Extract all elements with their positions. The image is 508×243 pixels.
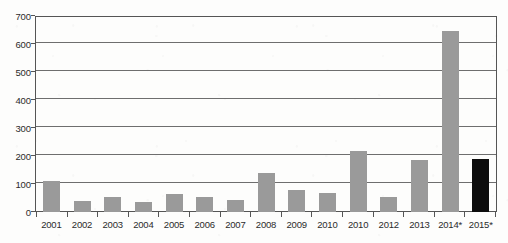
x-tick-mark: [281, 212, 282, 217]
x-tick-mark: [189, 212, 190, 217]
x-tick-slot: [189, 212, 220, 217]
x-axis-tick-marks: [36, 212, 496, 217]
x-tick-slot: [311, 212, 342, 217]
bar-2010: [350, 151, 367, 212]
x-tick-label: 2002: [67, 219, 98, 239]
x-tick-label: 2001: [36, 219, 67, 239]
x-tick-slot: [403, 212, 434, 217]
x-tick-mark: [158, 212, 159, 217]
x-tick-slot: [67, 212, 98, 217]
y-axis-tick-marks: [0, 16, 35, 212]
x-tick-slot: [281, 212, 312, 217]
bar-2001: [43, 181, 60, 212]
x-tick-label: 2014*: [435, 219, 466, 239]
bar-slot: [343, 16, 374, 212]
x-tick-slot: [128, 212, 159, 217]
bar-slot: [220, 16, 251, 212]
x-tick-mark: [128, 212, 129, 217]
x-tick-mark: [220, 212, 221, 217]
bar-slot: [128, 16, 159, 212]
bar-slot: [36, 16, 67, 212]
bar-2005: [166, 194, 183, 212]
bar-chart: 0100200300400500600700 20012002200320042…: [0, 0, 508, 243]
x-tick-label: 2013: [404, 219, 435, 239]
x-tick-label: 2010: [312, 219, 343, 239]
bar-2004: [135, 202, 152, 212]
bar-slot: [251, 16, 282, 212]
x-tick-slot: [373, 212, 404, 217]
bar-2002: [74, 201, 91, 212]
bar-2003: [104, 197, 121, 212]
bar-2015-est: [472, 159, 489, 212]
x-tick-slot: [250, 212, 281, 217]
x-tick-mark: [67, 212, 68, 217]
bar-slot: [312, 16, 343, 212]
bar-slot: [373, 16, 404, 212]
bar-2012: [380, 197, 397, 212]
x-tick-slot: [158, 212, 189, 217]
bars-layer: [36, 16, 496, 212]
x-tick-label: 2010: [343, 219, 374, 239]
x-tick-mark: [250, 212, 251, 217]
bar-2007: [227, 200, 244, 212]
x-tick-slot: [97, 212, 128, 217]
bar-2006: [196, 197, 213, 212]
x-tick-mark: [97, 212, 98, 217]
bar-2013: [411, 160, 428, 212]
x-tick-mark: [311, 212, 312, 217]
x-tick-label: 2004: [128, 219, 159, 239]
bar-2014-est: [442, 31, 459, 212]
x-tick-label: 2012: [373, 219, 404, 239]
bar-slot: [404, 16, 435, 212]
x-tick-label: 2015*: [465, 219, 496, 239]
x-tick-mark: [464, 212, 465, 217]
x-tick-mark: [342, 212, 343, 217]
x-tick-label: 2005: [159, 219, 190, 239]
bar-slot: [159, 16, 190, 212]
bar-2010: [319, 193, 336, 212]
bar-slot: [67, 16, 98, 212]
bar-2008: [258, 173, 275, 212]
x-tick-slot: [464, 212, 495, 217]
x-tick-mark: [373, 212, 374, 217]
x-tick-mark-end: [495, 212, 496, 217]
x-tick-mark: [434, 212, 435, 217]
x-tick-label: 2008: [251, 219, 282, 239]
bar-slot: [281, 16, 312, 212]
x-tick-label: 2003: [97, 219, 128, 239]
bar-slot: [189, 16, 220, 212]
x-tick-label: 2009: [281, 219, 312, 239]
bar-2009: [288, 190, 305, 212]
x-axis-labels: 2001200220032004200520062007200820092010…: [36, 219, 496, 239]
x-tick-slot: [220, 212, 251, 217]
bar-slot: [435, 16, 466, 212]
x-tick-mark: [36, 212, 37, 217]
x-tick-label: 2006: [189, 219, 220, 239]
x-tick-mark: [403, 212, 404, 217]
bar-slot: [465, 16, 496, 212]
x-tick-label: 2007: [220, 219, 251, 239]
x-tick-slot: [434, 212, 465, 217]
x-tick-slot: [36, 212, 67, 217]
x-tick-slot: [342, 212, 373, 217]
bar-slot: [97, 16, 128, 212]
